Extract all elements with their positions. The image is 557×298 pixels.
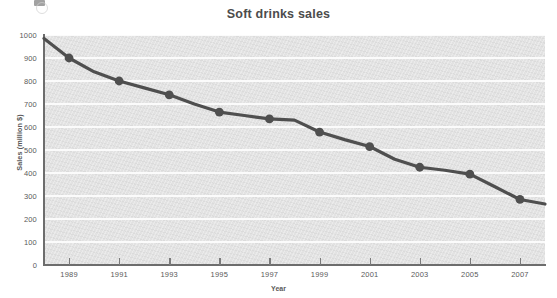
data-point-marker xyxy=(365,142,374,151)
data-point-marker xyxy=(165,90,174,99)
data-point-marker xyxy=(215,108,224,117)
data-point-marker xyxy=(315,128,324,137)
data-point-marker xyxy=(115,77,124,86)
data-series-layer xyxy=(0,0,557,298)
data-point-marker xyxy=(265,115,274,124)
x-axis-title: Year xyxy=(0,285,557,292)
data-point-marker xyxy=(516,195,525,204)
data-point-marker xyxy=(65,54,74,63)
chart-figure: Soft drinks sales 0100200300400500600700… xyxy=(0,0,557,298)
data-point-marker xyxy=(465,170,474,179)
series-marker-group xyxy=(65,54,525,204)
data-point-marker xyxy=(415,163,424,172)
y-axis-title: Sales (million $) xyxy=(15,83,24,203)
series-line-soft-drinks-sales xyxy=(44,38,545,204)
